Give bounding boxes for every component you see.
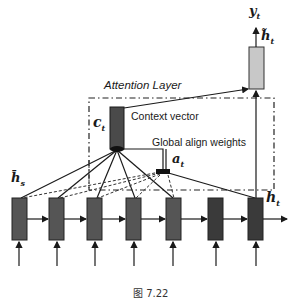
figure-caption: 图 7.22 <box>133 285 168 300</box>
rnn-cell <box>166 198 181 240</box>
attention-diagram <box>0 0 297 302</box>
rnn-cell <box>208 198 223 240</box>
rnn-cell <box>12 198 27 240</box>
align-weights-node <box>156 169 170 174</box>
label-a-t: at <box>172 151 184 169</box>
rnn-cell <box>248 198 263 240</box>
label-c-t: ct <box>93 114 105 133</box>
label-y-t: yt <box>249 3 260 21</box>
input-arrows <box>19 242 256 266</box>
label-htilde-t: h̃t <box>261 28 274 46</box>
label-global-align-weights: Global align weights <box>152 136 246 148</box>
attention-layer-title: Attention Layer <box>104 79 181 91</box>
rnn-cell <box>126 198 141 240</box>
context-vector-cell <box>110 107 124 149</box>
context-hub <box>110 146 124 152</box>
label-h-t: ht <box>266 189 280 208</box>
attention-connections <box>21 149 255 198</box>
rnn-cell <box>87 198 102 240</box>
label-h-s: h̄s <box>11 170 25 188</box>
label-context-vector: Context vector <box>131 110 199 122</box>
attentional-hidden-cell <box>249 47 264 89</box>
rnn-cell <box>49 198 64 240</box>
